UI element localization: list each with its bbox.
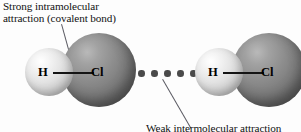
intramolecular-attraction-label: Strong intramolecular attraction (covale… — [3, 0, 116, 24]
attraction-dot — [177, 70, 184, 77]
molecular-attraction-figure: Strong intramolecular attraction (covale… — [0, 0, 301, 132]
atom-label-cl-right: Cl — [261, 66, 274, 79]
covalent-bond-left — [53, 72, 94, 74]
atom-label-cl-left: Cl — [91, 66, 104, 79]
attraction-dot — [151, 70, 158, 77]
intermolecular-attraction-dots — [138, 70, 200, 78]
attraction-dot — [138, 70, 145, 77]
atom-label-h-left: H — [38, 66, 48, 79]
intramolecular-attraction-label-line2: attraction (covalent bond) — [3, 12, 116, 24]
intramolecular-attraction-label-line1: Strong intramolecular — [3, 0, 116, 12]
intermolecular-attraction-label-line1: Weak intermolecular attraction — [146, 122, 281, 132]
intermolecular-attraction-label: Weak intermolecular attraction — [146, 122, 281, 132]
attraction-dot — [164, 70, 171, 77]
covalent-bond-right — [223, 72, 264, 74]
atom-label-h-right: H — [208, 66, 218, 79]
